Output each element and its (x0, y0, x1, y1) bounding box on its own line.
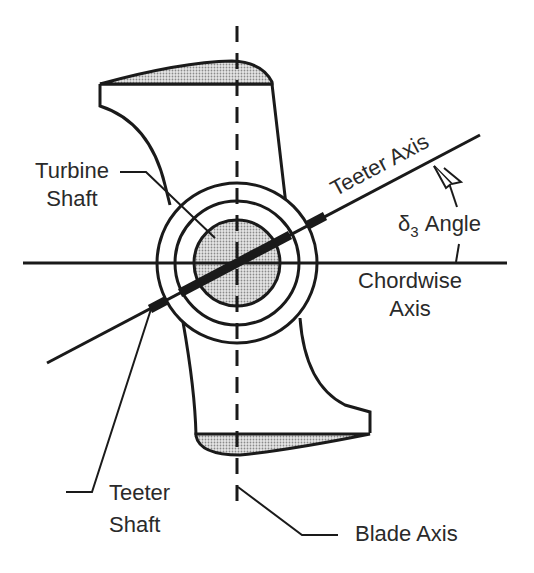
lower-airfoil-section (196, 434, 370, 455)
delta3-angle-label: δ3 Angle (398, 211, 481, 239)
teeter-shaft-leader (66, 306, 152, 492)
delta3-symbol: δ (398, 211, 410, 236)
blade-axis-label: Blade Axis (355, 521, 458, 547)
teeter-shaft-label-line1: Teeter (109, 480, 170, 506)
chordwise-axis-label: Chordwise Axis (340, 268, 480, 322)
teeter-shaft-label: Teeter Shaft (109, 480, 170, 538)
turbine-shaft-label-line2: Shaft (22, 186, 122, 212)
blade-axis-leader (238, 487, 338, 535)
delta3-arrow-icon (434, 166, 461, 207)
delta3-text: Angle (425, 211, 481, 236)
turbine-shaft-label-line1: Turbine (22, 158, 122, 184)
teeter-shaft-end-right (308, 216, 325, 225)
chordwise-label-line1: Chordwise (340, 268, 480, 294)
delta3-subscript: 3 (410, 223, 418, 240)
teeter-shaft-label-line2: Shaft (109, 512, 170, 538)
upper-airfoil-section (100, 61, 272, 84)
teeter-shaft-end-left (150, 300, 167, 309)
chordwise-label-line2: Axis (340, 296, 480, 322)
turbine-shaft-label: Turbine Shaft (22, 158, 122, 212)
delta3-leader (456, 244, 459, 262)
